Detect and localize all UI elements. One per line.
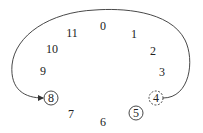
clock-number-10: 10	[46, 42, 58, 56]
clock-number-1: 1	[131, 27, 137, 41]
clock-number-8: 8	[48, 91, 54, 105]
clock-number-3: 3	[159, 65, 165, 79]
clock-number-7: 7	[68, 107, 74, 121]
clock-number-2: 2	[150, 44, 156, 58]
clock-number-6: 6	[100, 115, 106, 129]
clock-number-9: 9	[40, 64, 46, 78]
clock-number-0: 0	[100, 19, 106, 33]
clock-number-11: 11	[66, 26, 78, 40]
clock-number-4: 4	[153, 91, 159, 105]
clock-diagram: 0 1 2 3 4 5 6 7 8 9 10 11	[0, 0, 203, 133]
clock-number-5: 5	[133, 106, 139, 120]
